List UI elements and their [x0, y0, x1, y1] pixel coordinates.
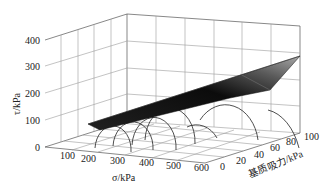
- x-axis-label: σ/kPa: [112, 172, 136, 183]
- surface-chart: 400 300 200 100 0 τ/kPa 100 200 300 400 …: [0, 0, 327, 189]
- y-tick: 40: [254, 149, 264, 160]
- x-tick: 500: [166, 160, 181, 171]
- x-tick: 200: [81, 153, 96, 164]
- envelope-surface: [88, 56, 300, 130]
- z-axis-ticks: 400 300 200 100 0: [25, 35, 40, 153]
- z-axis-label: τ/kPa: [11, 93, 22, 115]
- y-tick: 100: [304, 131, 319, 142]
- z-tick: 100: [25, 115, 40, 126]
- z-tick: 400: [25, 35, 40, 46]
- x-tick: 400: [139, 157, 154, 168]
- y-tick: 80: [286, 136, 296, 147]
- z-tick: 300: [25, 61, 40, 72]
- left-wall-grid: [45, 14, 127, 147]
- x-tick: 100: [60, 150, 75, 161]
- x-tick: 300: [110, 155, 125, 166]
- z-tick: 200: [25, 88, 40, 99]
- y-tick: 0: [220, 161, 225, 172]
- y-tick: 60: [270, 142, 280, 153]
- z-tick: 0: [35, 142, 40, 153]
- x-tick: 600: [194, 162, 209, 173]
- y-tick: 20: [236, 155, 246, 166]
